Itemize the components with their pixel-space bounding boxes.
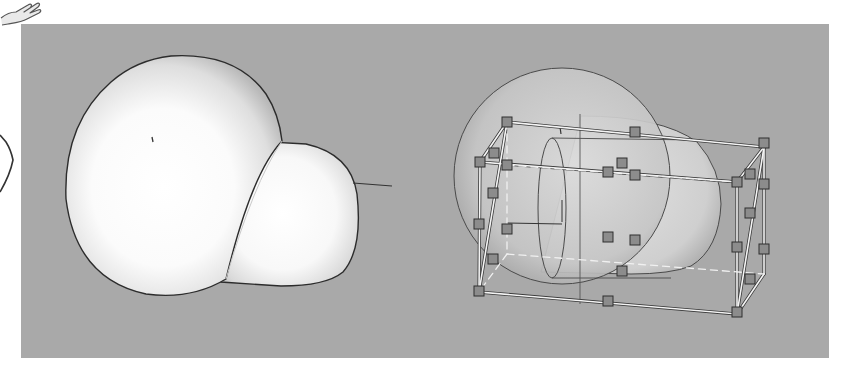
handle (732, 242, 742, 252)
handle (489, 148, 499, 158)
handle (630, 170, 640, 180)
handle (630, 235, 640, 245)
left-merged-object[interactable] (66, 56, 392, 296)
3d-viewport[interactable] (21, 24, 829, 358)
handle (759, 138, 769, 148)
handle (745, 208, 755, 218)
handle (488, 188, 498, 198)
handle (630, 127, 640, 137)
handle (732, 177, 742, 187)
handle (603, 296, 613, 306)
handle (474, 286, 484, 296)
scene (0, 0, 855, 377)
handle (474, 219, 484, 229)
bracket-curve-icon (0, 130, 16, 210)
handle (759, 179, 769, 189)
handle (745, 274, 755, 284)
handle (603, 167, 613, 177)
handle (603, 232, 613, 242)
handle (502, 117, 512, 127)
handle (745, 169, 755, 179)
handle (502, 224, 512, 234)
viewport-render (21, 24, 829, 358)
handle (502, 160, 512, 170)
handle (617, 158, 627, 168)
handle (759, 244, 769, 254)
pointing-hand-icon (0, 0, 45, 26)
handle (488, 254, 498, 264)
handle (732, 307, 742, 317)
handle (475, 157, 485, 167)
handle (617, 266, 627, 276)
right-selected-object[interactable] (454, 68, 769, 317)
